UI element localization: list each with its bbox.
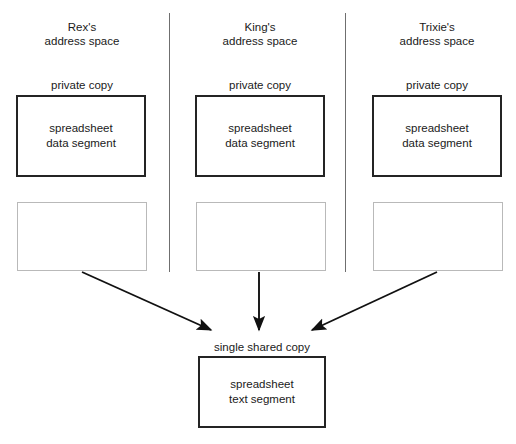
trixie-data-segment-box: spreadsheet data segment <box>372 95 502 177</box>
rex-data-segment-box: spreadsheet data segment <box>16 95 146 177</box>
column-header-king: King's address space <box>194 20 326 48</box>
trixie-data-segment-text: spreadsheet data segment <box>402 121 472 151</box>
column-header-rex: Rex's address space <box>16 20 148 48</box>
shared-text-segment-text: spreadsheet text segment <box>229 377 295 407</box>
private-copy-label-king: private copy <box>194 78 326 92</box>
rex-empty-box <box>17 202 147 271</box>
trixie-empty-box <box>373 202 503 271</box>
column-header-trixie: Trixie's address space <box>371 20 503 48</box>
column-divider-left <box>169 13 170 272</box>
private-copy-label-rex: private copy <box>16 78 148 92</box>
arrow-trixie-to-shared <box>312 272 437 330</box>
column-divider-right <box>345 13 346 272</box>
rex-data-segment-text: spreadsheet data segment <box>46 121 116 151</box>
address-space-sharing-diagram: Rex's address space private copy spreads… <box>0 0 516 444</box>
king-data-segment-text: spreadsheet data segment <box>225 121 295 151</box>
shared-text-segment-box: spreadsheet text segment <box>198 356 326 428</box>
king-data-segment-box: spreadsheet data segment <box>195 95 325 177</box>
private-copy-label-trixie: private copy <box>371 78 503 92</box>
arrow-rex-to-shared <box>82 272 211 330</box>
king-empty-box <box>196 202 326 271</box>
single-shared-copy-label: single shared copy <box>180 340 344 354</box>
